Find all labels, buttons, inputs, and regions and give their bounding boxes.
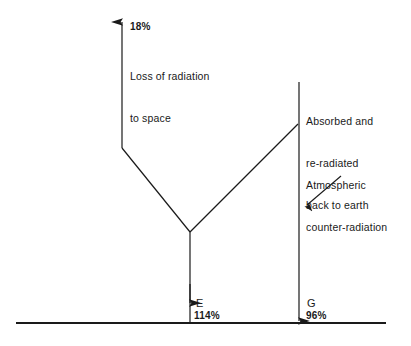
loss-caption-line-1: Loss of radiation: [130, 69, 210, 83]
loss-caption-line-2: to space: [130, 111, 210, 125]
g-symbol-label: G: [307, 296, 316, 310]
loss-branch-diagonal: [122, 148, 190, 232]
e-value-label: 114%: [194, 309, 220, 323]
atmospheric-caption-line-1: Atmospheric: [306, 178, 387, 192]
radiation-balance-diagram: 18% Loss of radiation to space Absorbed …: [0, 0, 411, 346]
loss-percent-label: 18%: [130, 20, 151, 34]
absorbed-caption-line-1: Absorbed and: [306, 114, 373, 128]
atmospheric-caption: Atmospheric counter-radiation: [306, 150, 387, 262]
loss-caption: Loss of radiation to space: [130, 41, 210, 153]
atmospheric-caption-line-2: counter-radiation: [306, 220, 387, 234]
g-value-label: 96%: [306, 309, 327, 323]
e-symbol-label: E: [196, 296, 204, 310]
